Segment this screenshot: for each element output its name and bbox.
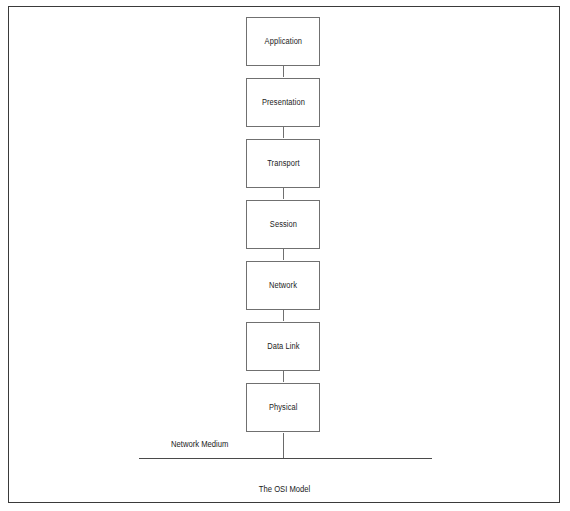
figure-caption: The OSI Model	[0, 485, 570, 494]
physical-to-medium-connector	[283, 433, 284, 459]
layer-label-network: Network	[269, 281, 297, 290]
network-medium-label: Network Medium	[171, 440, 228, 449]
layer-box-transport[interactable]: Transport	[246, 139, 320, 188]
layer-box-presentation[interactable]: Presentation	[246, 78, 320, 127]
layer-box-data-link[interactable]: Data Link	[246, 322, 320, 371]
layer-label-session: Session	[269, 220, 296, 229]
layer-label-presentation: Presentation	[261, 98, 304, 107]
layer-label-physical: Physical	[269, 403, 298, 412]
layer-label-transport: Transport	[267, 159, 300, 168]
figure-caption-text: The OSI Model	[259, 485, 310, 494]
network-medium-line	[139, 458, 432, 459]
layer-label-application: Application	[264, 37, 302, 46]
osi-model-figure: Application Presentation Transport Sessi…	[0, 0, 570, 511]
osi-layer-stack: Application Presentation Transport Sessi…	[246, 17, 320, 444]
layer-box-session[interactable]: Session	[246, 200, 320, 249]
layer-box-network[interactable]: Network	[246, 261, 320, 310]
layer-box-physical[interactable]: Physical	[246, 383, 320, 432]
layer-label-data-link: Data Link	[267, 342, 299, 351]
layer-box-application[interactable]: Application	[246, 17, 320, 66]
